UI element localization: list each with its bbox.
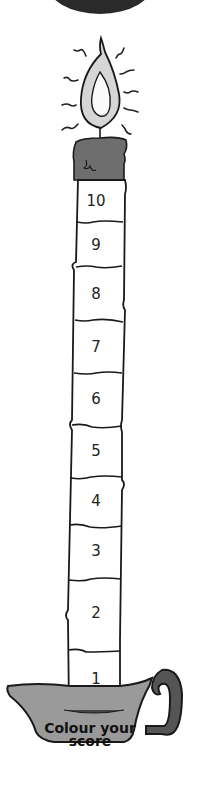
segment-10-label[interactable]: 10 [70,192,122,210]
wax-drip-shape [73,137,126,180]
segment-7-label[interactable]: 7 [70,338,122,356]
segment-6-label[interactable]: 6 [70,390,122,408]
top-disc-shape [46,0,154,14]
segment-2-label[interactable]: 2 [70,604,122,622]
segment-8-label[interactable]: 8 [70,285,122,303]
segment-5-label[interactable]: 5 [70,442,122,460]
caption-line-2: score [30,735,150,748]
segment-1-label[interactable]: 1 [70,670,122,688]
segment-4-label[interactable]: 4 [70,492,122,510]
segment-3-label[interactable]: 3 [70,542,122,560]
flame-icon [81,38,120,140]
segment-9-label[interactable]: 9 [70,236,122,254]
